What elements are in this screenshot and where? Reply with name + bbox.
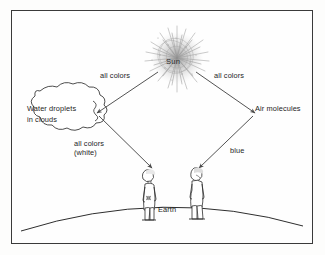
diagram-canvas: Sun Water droplets in clouds all colors … xyxy=(0,0,325,255)
cloud-label: Water droplets in clouds xyxy=(27,104,97,125)
sun-label: Sun xyxy=(166,57,180,66)
label-blue: blue xyxy=(230,146,244,155)
label-all-colors-white-line1: all colors xyxy=(74,139,104,148)
cloud-label-line2: in clouds xyxy=(27,115,57,124)
label-all-colors-white-line2: (white) xyxy=(74,148,97,157)
air-molecules-label: Air molecules xyxy=(255,104,301,113)
label-all-colors-right: all colors xyxy=(214,71,244,80)
cloud-label-line1: Water droplets xyxy=(27,104,76,113)
earth-label: Earth xyxy=(158,205,176,214)
label-all-colors-left: all colors xyxy=(100,71,130,80)
label-all-colors-white: all colors (white) xyxy=(74,139,134,158)
